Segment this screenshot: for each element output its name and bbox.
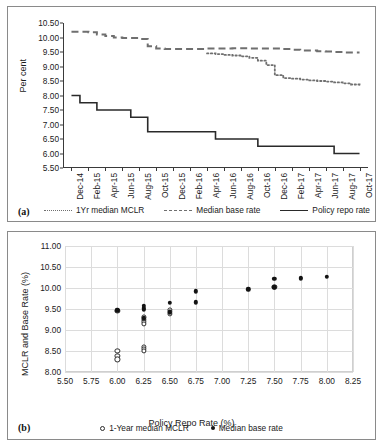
panel-a-x-tick-label: Apr-15 — [109, 173, 119, 198]
panel-b-gridline-vertical — [353, 246, 354, 372]
panel-a-x-tick-mark — [343, 168, 344, 171]
panel-b-y-tick-label: 9.50 — [45, 304, 65, 314]
panel-b-gridline-vertical — [222, 246, 223, 372]
panel-a-x-tick-mark — [88, 168, 89, 171]
panel-b-gridline-horizontal — [65, 288, 353, 289]
panel-a-x-tick-label: Aug-16 — [245, 173, 255, 200]
legend-swatch-dashed-icon — [164, 210, 192, 211]
panel-a-y-axis-label: Per cent — [18, 59, 28, 93]
panel-b-gridline-vertical — [301, 246, 302, 372]
panel-a-y-tick-mark — [60, 95, 63, 96]
panel-a-x-tick-mark — [309, 168, 310, 171]
panel-a-x-tick-mark — [139, 168, 140, 171]
panel-a-x-tick-mark — [156, 168, 157, 171]
panel-b-x-tick-label: 5.50 — [57, 376, 73, 386]
panel-a-x-tick-label: Aug-15 — [143, 173, 153, 200]
panel-a-x-tick-mark — [173, 168, 174, 171]
panel-a-y-tick-mark — [60, 139, 63, 140]
legend-swatch-solid-icon — [280, 210, 308, 211]
panel-b-legend-item: 1-Year median MCLR — [100, 423, 188, 433]
panel-b-legend-label: 1-Year median MCLR — [109, 423, 188, 433]
panel-a-x-tick-label: Jun-16 — [228, 173, 238, 198]
panel-b-x-tick-label: 7.00 — [214, 376, 230, 386]
panel-a-x-tick-label: Aug-17 — [347, 173, 357, 200]
panel-a-legend-item: Policy repo rate — [280, 205, 370, 215]
panel-b-x-tick-label: 7.25 — [240, 376, 256, 386]
panel-b-x-tick-label: 6.75 — [188, 376, 204, 386]
panel-a-x-tick-mark — [258, 168, 259, 171]
panel-b-legend-label: Median base rate — [219, 423, 283, 433]
panel-a-x-tick-mark — [326, 168, 327, 171]
panel-a-x-tick-label: Feb-17 — [296, 173, 306, 199]
panel-a-legend-label: Median base rate — [196, 205, 260, 215]
panel-a-x-tick-label: Oct-16 — [262, 173, 272, 198]
panel-a-x-tick-label: Oct-17 — [364, 173, 374, 198]
panel-b-x-tick-label: 7.75 — [293, 376, 309, 386]
panel-a-x-tick-mark — [292, 168, 293, 171]
panel-a-y-tick-mark — [60, 168, 63, 169]
panel-b-y-tick-label: 10.50 — [40, 262, 65, 272]
panel-a-x-tick-label: Apr-17 — [313, 173, 323, 198]
panel-a-plot-area: 5.506.006.507.007.508.008.509.009.5010.0… — [63, 23, 368, 168]
panel-b-gridline-horizontal — [65, 330, 353, 331]
panel-b-legend: 1-Year median MCLRMedian base rate — [8, 423, 375, 433]
panel-a-x-tick-mark — [360, 168, 361, 171]
panel-b-y-tick-label: 11.00 — [41, 241, 65, 251]
panel-a-x-tick-label: Dec-15 — [177, 173, 187, 200]
legend-marker-filled-circle-icon — [211, 426, 215, 430]
panel-a-y-tick-mark — [60, 52, 63, 53]
panel-b-plot-area: 8.008.509.009.5010.0010.5011.00 5.505.75… — [65, 246, 353, 372]
panel-a-axes — [63, 23, 368, 168]
panel-b-gridline-horizontal — [65, 267, 353, 268]
panel-a-x-tick-mark — [275, 168, 276, 171]
panel-a-legend-label: 1Yr median MCLR — [76, 205, 144, 215]
panel-a-x-tick-mark — [105, 168, 106, 171]
panel-b-gridline-horizontal — [65, 246, 353, 247]
panel-a-x-tick-label: Jun-15 — [126, 173, 136, 198]
panel-a-x-tick-mark — [190, 168, 191, 171]
panel-a-x-tick-mark — [241, 168, 242, 171]
panel-a-y-tick-mark — [60, 81, 63, 82]
figure-container: Per cent 5.506.006.507.007.508.008.509.0… — [0, 0, 383, 446]
panel-b-gridline-horizontal — [65, 309, 353, 310]
panel-b-x-tick-label: 6.50 — [162, 376, 178, 386]
panel-b-y-tick-label: 10.00 — [40, 283, 65, 293]
panel-b-x-tick-label: 6.25 — [135, 376, 151, 386]
panel-a-y-tick-mark — [60, 124, 63, 125]
legend-swatch-dotted-icon — [44, 210, 72, 211]
panel-b-gridline-vertical — [248, 246, 249, 372]
panel-a-x-tick-mark — [122, 168, 123, 171]
panel-a-y-tick-mark — [60, 37, 63, 38]
panel-b-gridline-vertical — [274, 246, 275, 372]
panel-a-x-tick-label: Dec-14 — [75, 173, 85, 200]
panel-b-x-tick-label: 8.25 — [345, 376, 361, 386]
panel-b-x-tick-label: 8.00 — [319, 376, 335, 386]
panel-a-x-tick-label: Feb-16 — [194, 173, 204, 199]
panel-a-x-tick-label: Jun-17 — [330, 173, 340, 198]
panel-a-x-tick-label: Oct-15 — [160, 173, 170, 198]
panel-b-legend-item: Median base rate — [211, 423, 283, 433]
panel-a-y-tick-mark — [60, 110, 63, 111]
panel-a-x-tick-mark — [207, 168, 208, 171]
panel-a-tag: (a) — [18, 206, 30, 217]
panel-b-x-tick-label: 6.00 — [109, 376, 125, 386]
panel-a-x-tick-label: Apr-16 — [211, 173, 221, 198]
panel-b-gridline-vertical — [91, 246, 92, 372]
legend-marker-open-circle-icon — [100, 426, 105, 431]
panel-a-x-tick-mark — [224, 168, 225, 171]
panel-a: Per cent 5.506.006.507.007.508.008.509.0… — [7, 6, 376, 222]
panel-b-y-tick-label: 9.00 — [45, 325, 65, 335]
panel-b: MCLR and Base Rate (%) 8.008.509.009.501… — [7, 231, 376, 440]
panel-a-y-tick-mark — [60, 23, 63, 24]
panel-a-y-tick-mark — [60, 153, 63, 154]
panel-a-legend-item: Median base rate — [164, 205, 260, 215]
panel-b-y-tick-label: 8.50 — [45, 346, 65, 356]
panel-a-x-tick-label: Dec-16 — [279, 173, 289, 200]
panel-a-x-tick-label: Feb-15 — [92, 173, 102, 199]
panel-b-tag: (b) — [18, 422, 30, 433]
panel-b-gridline-horizontal — [65, 351, 353, 352]
panel-b-gridline-vertical — [327, 246, 328, 372]
panel-a-y-tick-mark — [60, 66, 63, 67]
panel-b-gridline-vertical — [65, 246, 66, 372]
panel-a-legend: 1Yr median MCLRMedian base ratePolicy re… — [44, 205, 370, 215]
